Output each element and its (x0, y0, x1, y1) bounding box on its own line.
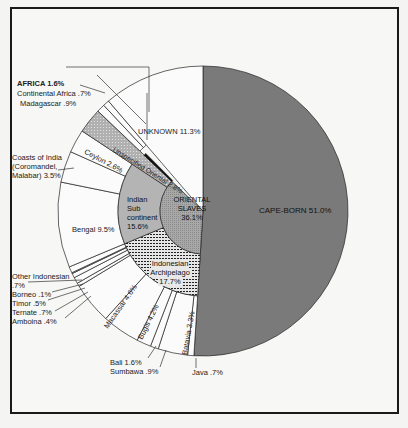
label-bali: Bali 1.6% (110, 358, 142, 367)
label-indonesian-line1: Indonesian (151, 259, 190, 268)
label-oriental-line3: 36.1% (165, 213, 219, 222)
label-bengal: Bengal 9.5% (72, 225, 115, 234)
label-indonesian-line3: 17.7% (158, 277, 181, 286)
label-amboina: Amboina .4% (12, 317, 57, 326)
label-coasts-line2: (Coromandel, (12, 162, 62, 171)
label-other-indonesian-line1: Other Indonesian (12, 272, 70, 281)
label-ternate: Ternate .7% (12, 308, 52, 317)
label-indian-line3: continent (127, 213, 157, 222)
label-timor: Timor .5% (12, 299, 46, 308)
label-borneo: Borneo .1% (12, 290, 51, 299)
label-indonesian-line2: Archipelago (149, 268, 191, 277)
label-oriental-line1: ORIENTAL (165, 195, 219, 204)
label-coasts: Coasts of India (Coromandel, Malabar) 3.… (12, 153, 62, 180)
label-oriental-line2: SLAVES (165, 204, 219, 213)
label-coasts-line1: Coasts of India (12, 153, 62, 162)
label-indian-line2: Sub (127, 204, 157, 213)
label-continental-africa: Continental Africa .7% (17, 89, 91, 98)
leader-sumbawa (160, 350, 166, 367)
label-coasts-line3: Malabar) 3.5% (12, 171, 62, 180)
label-indian-line1: Indian (127, 195, 157, 204)
label-africa: AFRICA 1.6% (17, 79, 64, 88)
leader-ternate (55, 292, 88, 311)
label-other-indonesian-line2: .7% (12, 281, 70, 290)
label-cape-born: CAPE-BORN 51.0% (259, 206, 331, 215)
label-java: Java .7% (192, 368, 223, 377)
label-indian: Indian Sub continent 15.6% (127, 195, 157, 231)
label-indonesian: Indonesian Archipelago 17.7% (140, 259, 200, 286)
leader-bali (148, 346, 156, 358)
label-unknown: UNKNOWN 11.3% (138, 127, 200, 136)
label-madagascar: Madagascar .9% (20, 99, 76, 108)
label-other-indonesian: Other Indonesian .7% (12, 272, 70, 290)
label-indian-line4: 15.6% (127, 222, 157, 231)
label-oriental: ORIENTAL SLAVES 36.1% (165, 195, 219, 222)
leader-amboina (65, 296, 91, 318)
label-sumbawa: Sumbawa .9% (110, 367, 158, 376)
